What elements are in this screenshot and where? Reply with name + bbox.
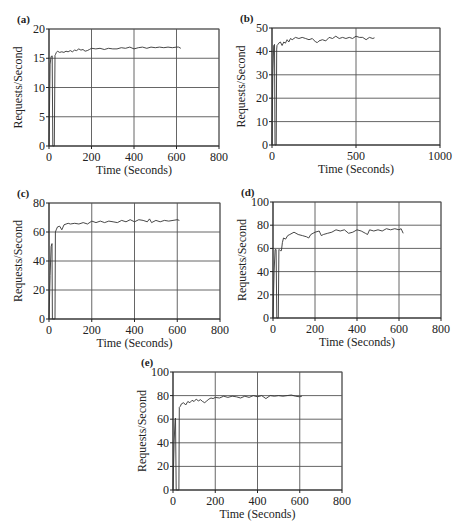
y-tick-label: 100 [151, 365, 169, 379]
chart-panel-b: 0102030405005001000Time (Seconds)Request… [234, 12, 452, 176]
x-tick-label: 0 [270, 322, 276, 336]
y-tick-label: 30 [256, 68, 268, 82]
y-tick-label: 10 [33, 81, 45, 95]
data-line [49, 219, 179, 319]
y-axis-label: Requests/Second [11, 220, 25, 302]
y-tick-label: 20 [33, 283, 45, 297]
x-axis-label: Time (Seconds) [97, 336, 173, 350]
x-tick-label: 1000 [428, 149, 452, 163]
y-axis-label: Requests/Second [235, 219, 249, 301]
x-axis-label: Time (Seconds) [220, 507, 296, 521]
y-tick-label: 0 [39, 139, 45, 153]
data-line [272, 36, 375, 145]
x-tick-label: 0 [269, 149, 275, 163]
x-tick-label: 400 [125, 150, 143, 164]
chart-panel-c: 0204060800200400600800Time (Seconds)Requ… [11, 187, 229, 350]
x-tick-label: 600 [168, 323, 186, 337]
y-tick-label: 20 [33, 22, 45, 36]
chart-panel-d: 0204060801000200400600800Time (Seconds)R… [235, 186, 450, 349]
figure-container: 051015200200400600800Time (Seconds)Reque… [0, 0, 462, 526]
x-axis-label: Time (Seconds) [319, 335, 395, 349]
y-tick-label: 0 [163, 483, 169, 497]
x-tick-label: 800 [333, 494, 351, 508]
x-tick-label: 0 [46, 150, 52, 164]
x-tick-label: 600 [168, 150, 186, 164]
x-tick-label: 800 [432, 322, 450, 336]
data-line [273, 229, 403, 318]
y-tick-label: 40 [33, 254, 45, 268]
y-tick-label: 80 [257, 218, 269, 232]
y-tick-label: 0 [262, 138, 268, 152]
y-tick-label: 0 [263, 311, 269, 325]
panel-label: (c) [17, 187, 30, 200]
y-tick-label: 60 [257, 241, 269, 255]
y-tick-label: 5 [39, 110, 45, 124]
y-tick-label: 40 [157, 436, 169, 450]
x-tick-label: 0 [170, 494, 176, 508]
y-tick-label: 0 [39, 312, 45, 326]
y-tick-label: 40 [256, 44, 268, 58]
panel-label: (a) [17, 13, 30, 26]
x-tick-label: 800 [211, 323, 229, 337]
x-tick-label: 400 [249, 494, 267, 508]
x-tick-label: 200 [83, 323, 101, 337]
figure-svg: 051015200200400600800Time (Seconds)Reque… [0, 0, 462, 526]
x-tick-label: 200 [206, 494, 224, 508]
x-tick-label: 600 [390, 322, 408, 336]
x-tick-label: 200 [306, 322, 324, 336]
panel-label: (e) [141, 356, 154, 369]
y-tick-label: 20 [157, 459, 169, 473]
panel-label: (b) [240, 12, 254, 25]
y-tick-label: 20 [257, 288, 269, 302]
y-tick-label: 10 [256, 115, 268, 129]
chart-panel-a: 051015200200400600800Time (Seconds)Reque… [11, 13, 228, 177]
y-tick-label: 60 [157, 412, 169, 426]
x-tick-label: 800 [210, 150, 228, 164]
y-tick-label: 50 [256, 21, 268, 35]
x-tick-label: 600 [291, 494, 309, 508]
y-axis-label: Requests/Second [11, 47, 25, 129]
y-tick-label: 80 [157, 389, 169, 403]
x-tick-label: 500 [347, 149, 365, 163]
x-tick-label: 400 [348, 322, 366, 336]
y-axis-label: Requests/Second [234, 46, 248, 128]
y-axis-label: Requests/Second [135, 390, 149, 472]
x-tick-label: 0 [46, 323, 52, 337]
y-tick-label: 80 [33, 196, 45, 210]
x-tick-label: 200 [83, 150, 101, 164]
data-line [49, 47, 181, 146]
panel-label: (d) [241, 186, 255, 199]
y-tick-label: 15 [33, 51, 45, 65]
y-tick-label: 20 [256, 91, 268, 105]
x-tick-label: 400 [126, 323, 144, 337]
y-tick-label: 40 [257, 265, 269, 279]
x-axis-label: Time (Seconds) [318, 162, 394, 176]
chart-panel-e: 0204060801000200400600800Time (Seconds)R… [135, 356, 351, 521]
y-tick-label: 60 [33, 225, 45, 239]
x-axis-label: Time (Seconds) [96, 163, 172, 177]
